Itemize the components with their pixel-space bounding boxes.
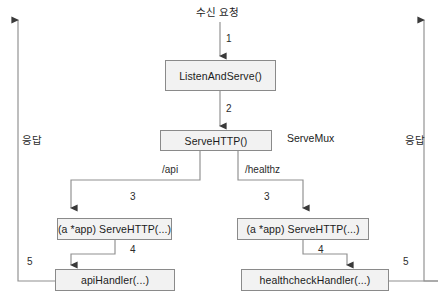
route-label-healthz: /healthz <box>245 164 280 175</box>
node-app-serve-http-healthz-label: (a *app) ServeHTTP(...) <box>246 223 359 235</box>
node-healthcheck-handler-label: healthcheckHandler(...) <box>260 274 371 286</box>
step-number-response-right: 5 <box>403 256 409 267</box>
edge-api-to-handler <box>71 240 115 265</box>
step-number-branch-healthz: 3 <box>264 191 270 202</box>
node-healthcheck-handler[interactable]: healthcheckHandler(...) <box>241 269 389 291</box>
edge-response-left <box>18 20 55 281</box>
step-number-response-left: 5 <box>27 256 33 267</box>
node-app-serve-http-api[interactable]: (a *app) ServeHTTP(...) <box>57 218 172 240</box>
route-label-api: /api <box>162 164 178 175</box>
node-api-handler[interactable]: apiHandler(...) <box>55 269 175 291</box>
edge-route-healthz <box>238 151 303 208</box>
node-app-serve-http-healthz[interactable]: (a *app) ServeHTTP(...) <box>237 218 369 240</box>
response-label-right: 응답 <box>405 132 425 147</box>
incoming-request-label: 수신 요청 <box>196 4 239 19</box>
step-number-branch-api: 3 <box>130 191 136 202</box>
edge-healthz-to-handler <box>303 240 347 265</box>
node-app-serve-http-api-label: (a *app) ServeHTTP(...) <box>58 223 171 235</box>
servemux-label: ServeMux <box>287 132 334 144</box>
step-number-healthcheck-handler: 4 <box>318 244 324 255</box>
edge-response-right <box>424 20 438 281</box>
node-api-handler-label: apiHandler(...) <box>81 274 149 286</box>
step-number-incoming: 1 <box>226 33 232 44</box>
diagram-canvas: 수신 요청 1 ListenAndServe() 2 ServeHTTP() S… <box>0 0 442 301</box>
node-serve-http-mux-label: ServeHTTP() <box>185 135 248 147</box>
response-label-left: 응답 <box>22 132 42 147</box>
node-listen-and-serve[interactable]: ListenAndServe() <box>165 60 276 91</box>
step-number-api-handler: 4 <box>130 244 136 255</box>
node-serve-http-mux[interactable]: ServeHTTP() <box>160 130 272 151</box>
step-number-to-mux: 2 <box>226 103 232 114</box>
node-listen-and-serve-label: ListenAndServe() <box>179 70 262 82</box>
